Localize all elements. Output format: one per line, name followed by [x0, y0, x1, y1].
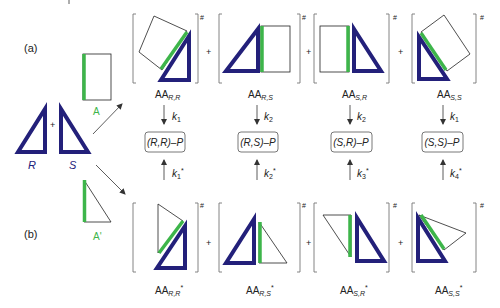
complex-a-rs — [219, 14, 300, 83]
svg-text:(R,S)–P: (R,S)–P — [240, 137, 276, 148]
label-r: R — [28, 159, 36, 171]
complex-label-a-rr: AAR,R — [155, 89, 180, 101]
rate-arrow-k1star-rr: k1* — [164, 160, 184, 180]
rate-arrow-k1-rr: k1 — [164, 105, 181, 124]
plus-sign: + — [398, 238, 403, 248]
complex-sup: # — [200, 202, 204, 209]
svg-text:AAR,R*: AAR,R* — [155, 284, 183, 297]
complex-label-a-sr: AAS,R — [342, 89, 367, 101]
rate-arrow-k1-ss: k1 — [443, 105, 459, 124]
svg-text:k1*: k1* — [172, 167, 184, 180]
complex-a-rr — [133, 14, 198, 83]
svg-text:(S,S)–P: (S,S)–P — [424, 137, 459, 148]
svg-text:k4*: k4* — [450, 167, 462, 180]
plus-sign: + — [306, 238, 311, 248]
reaction-diagram: (a) (b) + R S A A' # + # — [0, 0, 500, 308]
plus-sign: + — [306, 47, 311, 57]
product-box-rs: (R,S)–P — [238, 132, 278, 152]
complex-b-sr — [314, 203, 389, 272]
svg-text:(R,R)–P: (R,R)–P — [147, 137, 183, 148]
label-a: A — [93, 106, 100, 117]
svg-text:k2: k2 — [357, 111, 366, 123]
complex-a-sr — [314, 14, 389, 83]
product-box-ss: (S,S)–P — [422, 132, 463, 152]
product-box-sr: (S,R)–P — [331, 132, 372, 152]
complex-b-rs — [219, 203, 300, 272]
rate-arrow-k2-sr: k2 — [350, 105, 366, 124]
panel-label-a: (a) — [24, 42, 37, 54]
complex-label-b-rr: AAR,R* — [155, 284, 183, 297]
svg-text:k1: k1 — [450, 111, 459, 123]
product-box-rr: (R,R)–P — [145, 132, 185, 152]
complex-sup: # — [393, 14, 397, 21]
complex-b-rr — [133, 203, 198, 272]
plus-sign: + — [398, 47, 403, 57]
complex-sup: # — [480, 14, 484, 21]
rate-arrow-k2-rs: k2 — [257, 105, 273, 124]
complex-b-ss — [412, 203, 476, 272]
label-s: S — [69, 159, 77, 171]
complex-label-b-rs: AAR,S* — [246, 284, 274, 297]
complex-a-ss — [412, 14, 476, 83]
svg-text:AAS,S*: AAS,S* — [435, 284, 463, 297]
svg-text:k3*: k3* — [357, 167, 369, 180]
complex-sup: # — [302, 14, 306, 21]
svg-text:k2*: k2* — [264, 167, 276, 180]
plus-sign: + — [206, 47, 211, 57]
complex-label-a-rs: AAR,S — [248, 89, 273, 101]
panel-label-b: (b) — [24, 228, 37, 240]
complex-sup: # — [302, 202, 306, 209]
svg-text:AAR,S*: AAR,S* — [246, 284, 274, 297]
arrow-to-row-b — [96, 165, 125, 194]
svg-text:AAS,R: AAS,R — [342, 89, 367, 101]
plus-sign: + — [50, 120, 55, 130]
complex-sup: # — [200, 14, 204, 21]
complex-sup: # — [393, 202, 397, 209]
rate-arrow-k2star-rs: k2* — [257, 160, 276, 180]
complex-label-b-sr: AAS,R* — [340, 284, 368, 297]
monomer-s-icon — [61, 109, 88, 152]
svg-text:k2: k2 — [264, 111, 273, 123]
plus-sign: + — [206, 238, 211, 248]
svg-text:AAR,S: AAR,S — [248, 89, 273, 101]
svg-text:AAR,R: AAR,R — [155, 89, 180, 101]
rate-arrow-k4star-ss: k4* — [443, 160, 462, 180]
complex-sup: # — [480, 202, 484, 209]
rate-arrow-k3star-sr: k3* — [350, 160, 369, 180]
label-a-prime: A' — [93, 231, 102, 242]
svg-text:(S,R)–P: (S,R)–P — [333, 137, 369, 148]
reagent-a-prime-icon — [84, 180, 111, 222]
monomer-r-icon — [18, 109, 45, 152]
svg-text:k1: k1 — [172, 111, 181, 123]
complex-label-a-ss: AAS,S — [437, 89, 462, 101]
svg-text:AAS,S: AAS,S — [437, 89, 462, 101]
complex-label-b-ss: AAS,S* — [435, 284, 463, 297]
svg-text:AAS,R*: AAS,R* — [340, 284, 368, 297]
reagent-a-icon — [83, 54, 111, 100]
